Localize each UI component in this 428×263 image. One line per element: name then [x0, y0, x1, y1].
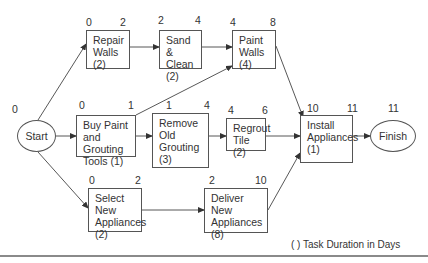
task-regrout-tile: Regrout Tile (2): [226, 118, 266, 151]
regrout-tile-ef: 6: [262, 105, 268, 116]
deliver-appliances-es: 2: [209, 175, 215, 186]
paint-walls-ef: 8: [270, 17, 276, 28]
task-sand-clean: Sand & Clean (2): [159, 30, 202, 69]
deliver-appliances-ef: 10: [255, 175, 267, 186]
task-select-appliances: Select New Appliances (2): [88, 188, 142, 232]
task-install-appliances: Install Appliances (1): [300, 115, 353, 163]
buy-paint-es: 0: [79, 100, 85, 111]
repair-walls-es: 0: [86, 17, 92, 28]
repair-walls-ef: 2: [120, 17, 126, 28]
select-appliances-es: 0: [89, 175, 95, 186]
sand-clean-es: 2: [158, 15, 164, 26]
task-paint-walls: Paint Walls (4): [232, 30, 276, 69]
sand-clean-ef: 4: [195, 15, 201, 26]
install-appliances-ef: 11: [347, 103, 358, 114]
remove-grouting-es: 1: [166, 100, 172, 111]
task-buy-paint: Buy Paint and Grouting Tools (1): [76, 115, 136, 157]
task-deliver-appliances: Deliver New Appliances (8): [204, 188, 268, 233]
task-repair-walls: Repair Walls (2): [86, 30, 130, 69]
task-remove-grouting: Remove Old Grouting (3): [152, 113, 209, 168]
install-appliances-es: 10: [307, 103, 319, 114]
select-appliances-ef: 2: [135, 175, 141, 186]
start-time: 0: [12, 104, 18, 115]
remove-grouting-ef: 4: [204, 100, 210, 111]
network-diagram: 0 Start 0 2 Repair Walls (2) 2 4 Sand & …: [0, 0, 428, 263]
finish-time: 11: [388, 103, 399, 114]
regrout-tile-es: 4: [228, 105, 234, 116]
legend-duration: ( ) Task Duration in Days: [291, 239, 400, 250]
finish-node: Finish: [370, 120, 416, 152]
bottom-rule: [0, 255, 428, 257]
paint-walls-es: 4: [230, 17, 236, 28]
buy-paint-ef: 1: [128, 100, 134, 111]
start-node: Start: [17, 120, 56, 152]
